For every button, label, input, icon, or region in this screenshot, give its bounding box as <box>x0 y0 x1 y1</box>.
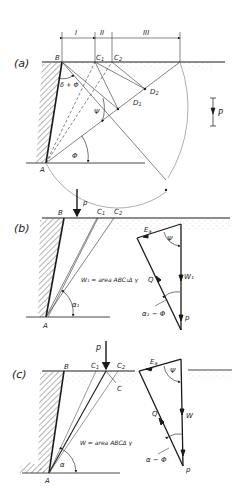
load-label-p: p <box>82 199 88 207</box>
point-C1: C1 <box>97 208 105 216</box>
point-B: B <box>58 209 63 217</box>
angle-label-alpha-phi: α₁ − Φ <box>142 310 166 318</box>
force-label-Ea: Ea <box>144 226 152 234</box>
point-C2: C2 <box>117 362 125 370</box>
point-A: A <box>42 322 48 330</box>
panel-c: (c) p B C1 C2 C W = area ABCΔ γ α A <box>12 341 232 485</box>
point-C1: C1 <box>91 362 99 370</box>
dim-label-3: III <box>143 29 149 37</box>
point-C2: C2 <box>114 208 122 216</box>
angle-label-alpha: α <box>60 461 65 469</box>
point-C1: C1 <box>96 54 104 62</box>
angle-label-psi: Ψ <box>167 235 173 243</box>
soil-texture <box>62 63 212 71</box>
panel-c-tag: (c) <box>12 368 27 381</box>
force-triangle-c <box>139 359 185 466</box>
wall-hatch <box>38 218 64 317</box>
angle-arc-phi <box>82 136 88 162</box>
angle-label-psi: Ψ <box>170 367 176 375</box>
weight-formula: W₁ = area ABC₁Δ γ <box>81 276 138 284</box>
point-C: C <box>117 385 122 393</box>
dim-label-2: II <box>100 29 104 37</box>
load-label-p: p <box>95 343 101 352</box>
panel-a: (a) I II III <box>14 29 225 208</box>
dim-label-1: I <box>75 29 77 37</box>
angle-label-delta-phi: δ + Φ <box>60 81 79 89</box>
soil-texture-right <box>188 371 232 379</box>
soil-texture <box>64 372 136 382</box>
point-B: B <box>64 363 69 371</box>
force-label-Q: Q <box>152 410 158 418</box>
load-scale-icon <box>210 98 216 126</box>
point-D2: D2 <box>150 88 159 96</box>
panel-a-tag: (a) <box>14 57 29 70</box>
force-label-p: p <box>185 466 191 474</box>
angle-label-psi: Ψ <box>94 108 100 116</box>
earth-pressure-diagram: (a) I II III <box>0 0 245 496</box>
force-label-Q: Q <box>148 276 154 284</box>
point-C2: C2 <box>114 54 122 62</box>
point-A: A <box>39 166 45 174</box>
force-label-W1: W₁ <box>184 273 194 281</box>
force-label-W: W <box>186 412 194 420</box>
force-label-Ea: Ea <box>150 358 158 366</box>
panel-b: (b) p B C1 C2 W₁ = area ABC₁Δ γ α₁ A <box>14 189 230 330</box>
angle-label-alpha-phi: α − Φ <box>146 456 167 464</box>
point-A: A <box>44 477 50 485</box>
angle-label-phi: Φ <box>72 152 78 160</box>
load-label-P: P <box>218 109 223 118</box>
weight-formula: W = area ABCΔ γ <box>80 439 133 447</box>
angle-label-alpha1: α₁ <box>72 301 80 309</box>
point-D1: D1 <box>133 99 142 107</box>
force-label-p: p <box>184 314 190 322</box>
point-B: B <box>55 54 60 62</box>
panel-b-tag: (b) <box>14 222 30 235</box>
arc-point <box>165 189 167 191</box>
